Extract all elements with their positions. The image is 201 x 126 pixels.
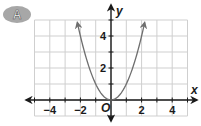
svg-text:2: 2: [139, 104, 145, 116]
x-axis-label: x: [190, 83, 199, 97]
origin-label: O: [101, 101, 111, 115]
svg-text:4: 4: [169, 104, 176, 116]
svg-text:4: 4: [100, 30, 107, 42]
svg-text:2: 2: [100, 62, 106, 74]
svg-text:−2: −2: [74, 104, 87, 116]
y-axis-label: y: [115, 4, 124, 18]
svg-text:−4: −4: [44, 104, 57, 116]
coordinate-plane: −4−22424 x y O: [0, 0, 201, 126]
